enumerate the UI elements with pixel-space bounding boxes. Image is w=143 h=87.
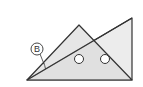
label-leader-line [40, 54, 44, 64]
hole-left [75, 55, 84, 64]
hole-right [101, 55, 110, 64]
angle-label-text: B [34, 44, 40, 54]
set-squares-diagram: B [0, 0, 143, 87]
diagram-canvas: B [0, 0, 143, 87]
